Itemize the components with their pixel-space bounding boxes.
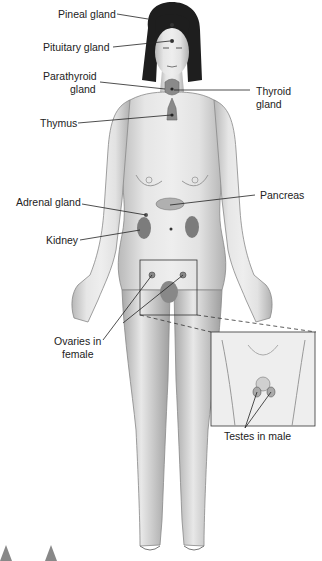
label-testes: Testes in male xyxy=(224,430,291,442)
label-thyroid-gland-line2: gland xyxy=(256,98,282,110)
pineal-gland xyxy=(170,23,174,27)
thyroid-gland xyxy=(165,79,179,95)
label-pancreas: Pancreas xyxy=(260,189,304,201)
small-figure-1 xyxy=(0,545,12,561)
pituitary-gland xyxy=(170,39,174,43)
label-pituitary-gland: Pituitary gland xyxy=(43,41,110,53)
label-parathyroid-gland-line2: gland xyxy=(70,83,96,95)
small-figure-2 xyxy=(45,545,57,561)
label-pineal-gland: Pineal gland xyxy=(58,8,116,20)
label-parathyroid-gland-line1: Parathyroid xyxy=(43,70,97,82)
label-ovaries-line1: Ovaries in xyxy=(54,335,101,347)
face xyxy=(155,28,189,76)
left-leg xyxy=(122,290,170,546)
label-adrenal-gland: Adrenal gland xyxy=(16,196,81,208)
label-ovaries-line2: female xyxy=(62,348,94,360)
label-thyroid-gland-line1: Thyroid xyxy=(256,85,291,97)
label-kidney: Kidney xyxy=(46,234,78,246)
kidney-right xyxy=(185,216,199,238)
label-thymus: Thymus xyxy=(40,117,77,129)
kidney-left xyxy=(137,217,151,239)
